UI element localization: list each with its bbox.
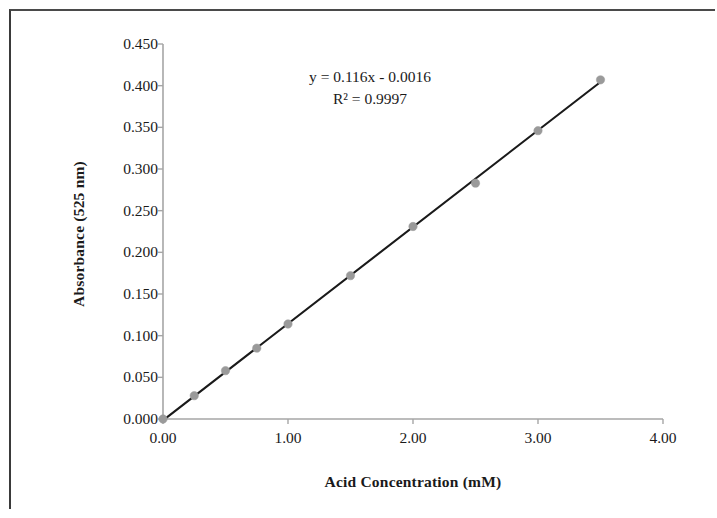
data-point-marker: [346, 271, 354, 279]
axis-tick-marks: [158, 44, 663, 424]
data-point-marker: [221, 366, 229, 374]
scatter-chart: Absorbance (525 nm) Acid Concentration (…: [0, 0, 717, 518]
data-point-marker: [284, 320, 292, 328]
figure-container: Absorbance (525 nm) Acid Concentration (…: [0, 0, 717, 518]
data-point-marker: [534, 126, 542, 134]
data-point-marker: [159, 415, 167, 423]
data-point-markers: [159, 76, 605, 424]
data-point-marker: [596, 76, 604, 84]
data-point-marker: [409, 222, 417, 230]
data-point-marker: [253, 344, 261, 352]
plot-canvas: [0, 0, 717, 518]
data-point-marker: [190, 391, 198, 399]
data-point-marker: [471, 179, 479, 187]
